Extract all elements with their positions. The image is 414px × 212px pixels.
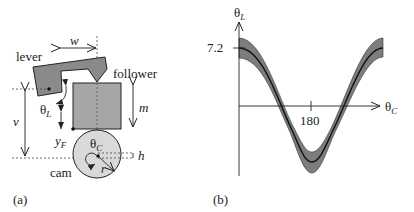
lever-pivot-dot — [47, 87, 51, 91]
m-label: m — [139, 100, 148, 115]
h-label: h — [138, 148, 145, 163]
v-label: v — [13, 114, 19, 129]
y-tick-label-7-2: 7.2 — [207, 40, 223, 55]
figure: w lever follower m v θL yF θC r — [0, 0, 414, 212]
panel-b: θL θC 7.2 180 (b) — [207, 5, 398, 207]
w-label: w — [70, 33, 79, 48]
r-label: r — [101, 162, 106, 176]
follower-corner-dot — [71, 127, 75, 131]
follower-label: follower — [113, 66, 158, 81]
y-axis-label: θL — [234, 5, 245, 22]
y-F-label: yF — [53, 133, 67, 150]
x-tick-label-180: 180 — [300, 113, 320, 128]
lever-label: lever — [16, 49, 43, 64]
panel-a: w lever follower m v θL yF θC r — [12, 33, 158, 207]
theta-L-label: θL — [40, 102, 51, 119]
follower-body — [73, 83, 121, 129]
panel-a-caption: (a) — [13, 192, 27, 207]
x-axis-label: θC — [385, 99, 398, 116]
panel-b-caption: (b) — [213, 192, 228, 207]
cam-label: cam — [50, 165, 72, 180]
